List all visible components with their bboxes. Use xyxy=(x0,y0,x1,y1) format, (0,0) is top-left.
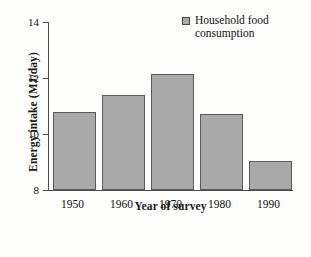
y-tick: 12 xyxy=(43,78,48,79)
y-tick: 14 xyxy=(43,22,48,23)
y-axis-title: Energy intake (MJ/day) xyxy=(27,22,39,202)
bar xyxy=(53,112,95,190)
y-axis-line xyxy=(48,22,49,190)
bar xyxy=(102,95,144,190)
y-tick-label: 10 xyxy=(28,126,39,142)
bar xyxy=(200,114,242,190)
bar xyxy=(151,74,193,190)
x-axis-title: Year of survey xyxy=(48,200,293,212)
chart-legend: Household food consumption xyxy=(182,14,307,40)
y-tick-label: 14 xyxy=(28,14,39,30)
plot-area: 8101214 19501960197019801990 xyxy=(48,22,293,190)
legend-item-label: Household food consumption xyxy=(195,14,307,40)
y-tick-label: 8 xyxy=(34,182,40,198)
bar-chart: Energy intake (MJ/day) 8101214 195019601… xyxy=(0,0,311,257)
y-tick: 8 xyxy=(43,190,48,191)
x-axis-line xyxy=(48,190,293,191)
y-tick: 10 xyxy=(43,134,48,135)
legend-square-icon xyxy=(182,17,190,25)
y-tick-label: 12 xyxy=(28,70,39,86)
bar xyxy=(249,161,291,190)
